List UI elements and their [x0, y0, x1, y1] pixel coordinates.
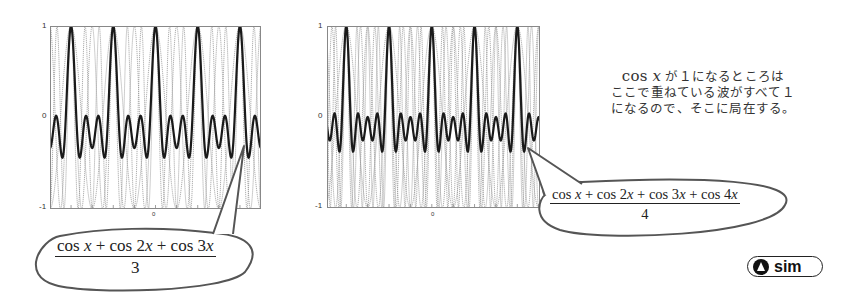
- caption-line-1: cos x が１になるところは: [578, 68, 828, 85]
- caption-line-2: ここで重ねている波がすべて１: [578, 85, 828, 101]
- right-formula: cos x + cos 2x + cos 3x + cos 4x 4: [550, 186, 740, 224]
- sim-button[interactable]: sim: [747, 256, 823, 277]
- left-callout-pointer: [213, 146, 244, 234]
- explanation-caption: cos x が１になるところは ここで重ねている波がすべて１ になるので、そこに…: [578, 68, 828, 117]
- sim-button-label: sim: [774, 259, 802, 275]
- left-formula-numerator: cos x + cos 2x + cos 3x: [55, 236, 216, 257]
- left-formula: cos x + cos 2x + cos 3x 3: [55, 236, 216, 279]
- play-triangle-circle-icon: [753, 259, 769, 275]
- right-formula-numerator: cos x + cos 2x + cos 3x + cos 4x: [550, 186, 740, 204]
- caption-line-3: になるので、そこに局在する。: [578, 101, 828, 117]
- left-formula-denominator: 3: [55, 257, 216, 279]
- right-formula-denominator: 4: [550, 204, 740, 224]
- caption-math: cos x: [622, 67, 661, 85]
